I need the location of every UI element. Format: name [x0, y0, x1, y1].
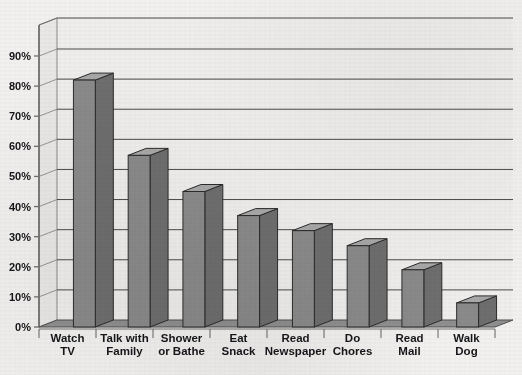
y-axis-tick-label: 20%	[9, 261, 31, 273]
y-axis-tick-label: 30%	[9, 231, 31, 243]
y-axis: 0%10%20%30%40%50%60%70%80%90%	[9, 25, 39, 333]
x-axis: WatchTVTalk withFamilyShoweror BatheEatS…	[39, 329, 495, 357]
chart-canvas: 0%10%20%30%40%50%60%70%80%90%WatchTVTalk…	[0, 0, 522, 375]
x-axis-category-label: Shower	[161, 332, 203, 344]
x-axis-category-label: or Bathe	[158, 345, 205, 357]
bar-front-face	[73, 80, 95, 327]
y-axis-tick-label: 60%	[9, 140, 31, 152]
bar-front-face	[402, 270, 424, 327]
bar-side-face	[369, 239, 387, 327]
bar-side-face	[314, 224, 332, 327]
x-axis-category-label: Talk with	[100, 332, 148, 344]
bar-front-face	[457, 303, 479, 327]
bar	[128, 148, 168, 327]
x-axis-category-label: Snack	[222, 345, 256, 357]
y-axis-tick-label: 90%	[9, 50, 31, 62]
x-axis-category-label: Read	[395, 332, 423, 344]
x-axis-category-label: Walk	[453, 332, 480, 344]
x-axis-category-label: Dog	[455, 345, 477, 357]
bar-side-face	[150, 148, 168, 327]
x-axis-category-label: Read	[281, 332, 309, 344]
y-axis-tick-label: 70%	[9, 110, 31, 122]
y-axis-tick-label: 40%	[9, 201, 31, 213]
bar-front-face	[238, 216, 260, 327]
x-axis-category-label: Do	[345, 332, 360, 344]
bar-front-face	[183, 192, 205, 328]
x-axis-category-label: Family	[106, 345, 143, 357]
bar-chart: 0%10%20%30%40%50%60%70%80%90%WatchTVTalk…	[0, 0, 522, 375]
x-axis-category-label: Eat	[230, 332, 248, 344]
bar	[402, 263, 442, 327]
y-axis-tick-label: 80%	[9, 80, 31, 92]
y-axis-tick-label: 10%	[9, 291, 31, 303]
bar-front-face	[292, 231, 314, 327]
x-axis-category-label: Chores	[333, 345, 373, 357]
y-axis-tick-label: 0%	[15, 321, 31, 333]
x-axis-category-label: TV	[60, 345, 75, 357]
bar	[238, 209, 278, 327]
bar-front-face	[128, 155, 150, 327]
x-axis-category-label: Mail	[398, 345, 420, 357]
bar-side-face	[424, 263, 442, 327]
bar-front-face	[347, 246, 369, 327]
bar	[73, 73, 113, 327]
y-axis-tick-label: 50%	[9, 170, 31, 182]
bar-side-face	[95, 73, 113, 327]
bar	[183, 185, 223, 328]
bar	[292, 224, 332, 327]
bar	[457, 296, 497, 327]
bar	[347, 239, 387, 327]
bar-side-face	[205, 185, 223, 328]
x-axis-category-label: Newspaper	[265, 345, 327, 357]
bar-side-face	[260, 209, 278, 327]
x-axis-category-label: Watch	[50, 332, 84, 344]
